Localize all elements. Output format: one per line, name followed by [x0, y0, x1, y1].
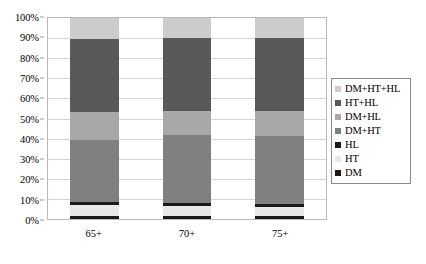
bar-segment [70, 112, 119, 140]
y-axis-tick-label: 40% [20, 133, 39, 144]
y-axis-tick-mark [40, 57, 44, 58]
y-axis-tick-label: 20% [20, 174, 39, 185]
x-axis-tick-label: 70+ [179, 228, 195, 239]
bar-stack [163, 18, 212, 219]
bar-segment [163, 216, 212, 219]
legend-label: HT+HL [345, 98, 378, 109]
stacked-bar-chart: 0%10%20%30%40%50%60%70%80%90%100% 65+70+… [0, 0, 426, 264]
chart-legend: DM+HT+HLHT+HLDM+HLDM+HTHLHTDM [331, 78, 411, 184]
y-axis-tick-mark [40, 199, 44, 200]
bar-group [70, 18, 119, 219]
bar-segment [163, 38, 212, 110]
y-axis-tick-mark [40, 138, 44, 139]
y-axis-tick-label: 70% [20, 72, 39, 83]
y-axis: 0%10%20%30%40%50%60%70%80%90%100% [0, 17, 44, 220]
legend-item[interactable]: HT [335, 152, 406, 166]
legend-item[interactable]: DM [335, 166, 406, 180]
bar-segment [70, 18, 119, 39]
bar-segment [70, 140, 119, 202]
y-axis-tick-mark [40, 118, 44, 119]
legend-swatch-icon [335, 170, 341, 176]
y-axis-tick-label: 30% [20, 154, 39, 165]
bar-group [163, 18, 212, 219]
y-axis-tick-label: 50% [20, 113, 39, 124]
legend-swatch-icon [335, 128, 341, 134]
legend-label: HT [345, 154, 359, 165]
legend-item[interactable]: DM+HL [335, 110, 406, 124]
bar-segment [255, 136, 304, 204]
y-axis-tick-mark [40, 77, 44, 78]
bar-segment [163, 206, 212, 216]
bar-stack [255, 18, 304, 219]
legend-swatch-icon [335, 114, 341, 120]
y-axis-tick-label: 60% [20, 93, 39, 104]
bar-segment [255, 38, 304, 110]
legend-swatch-icon [335, 156, 341, 162]
bar-group [255, 18, 304, 219]
y-axis-tick-label: 0% [25, 215, 39, 226]
legend-label: DM [345, 168, 362, 179]
legend-item[interactable]: HT+HL [335, 96, 406, 110]
bar-segment [70, 39, 119, 111]
x-axis-tick-label: 75+ [272, 228, 288, 239]
plot-area [47, 17, 327, 220]
legend-label: DM+HT [345, 126, 381, 137]
legend-swatch-icon [335, 86, 341, 92]
x-axis: 65+70+75+ [47, 222, 327, 244]
legend-item[interactable]: HL [335, 138, 406, 152]
bar-segment [163, 111, 212, 135]
bar-segment [163, 135, 212, 203]
bar-stack [70, 18, 119, 219]
y-axis-tick-mark [40, 37, 44, 38]
legend-swatch-icon [335, 142, 341, 148]
y-axis-tick-label: 10% [20, 194, 39, 205]
x-axis-tick-label: 65+ [85, 228, 101, 239]
legend-swatch-icon [335, 100, 341, 106]
bar-segment [70, 205, 119, 216]
y-axis-tick-mark [40, 17, 44, 18]
bar-segment [255, 18, 304, 38]
bar-segment [255, 111, 304, 136]
legend-item[interactable]: DM+HT+HL [335, 82, 406, 96]
legend-item[interactable]: DM+HT [335, 124, 406, 138]
y-axis-tick-mark [40, 98, 44, 99]
y-axis-tick-label: 100% [15, 12, 39, 23]
y-axis-tick-mark [40, 220, 44, 221]
y-axis-tick-label: 80% [20, 52, 39, 63]
legend-label: HL [345, 140, 359, 151]
bar-segment [255, 216, 304, 219]
bar-segment [70, 216, 119, 219]
bar-segment [163, 18, 212, 38]
y-axis-tick-mark [40, 159, 44, 160]
legend-label: DM+HL [345, 112, 381, 123]
legend-label: DM+HT+HL [345, 84, 400, 95]
y-axis-tick-mark [40, 179, 44, 180]
bar-segment [255, 207, 304, 216]
y-axis-tick-label: 90% [20, 32, 39, 43]
